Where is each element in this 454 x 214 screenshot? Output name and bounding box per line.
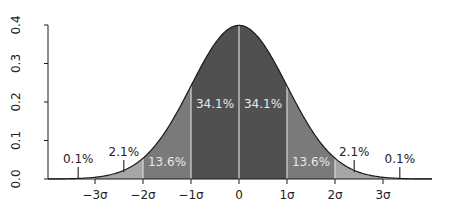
x-tick-label: −3σ [82, 188, 108, 202]
y-tick-label: 0.3 [9, 54, 23, 73]
region-label: 13.6% [292, 155, 330, 169]
x-tick-label: −2σ [130, 188, 156, 202]
region-label: 0.1% [63, 152, 94, 166]
x-tick-label: −1σ [178, 188, 204, 202]
chart-canvas: 0.00.10.20.30.4 −3σ−2σ−1σ01σ2σ3σ 0.1%2.1… [0, 0, 454, 214]
region-label: 2.1% [109, 145, 140, 159]
y-tick-label: 0.2 [9, 92, 23, 111]
y-tick-label: 0.0 [9, 169, 23, 188]
y-tick-label: 0.1 [9, 131, 23, 150]
y-axis-ticks: 0.00.10.20.30.4 [9, 15, 48, 188]
region-label: 2.1% [339, 145, 370, 159]
region-label: 34.1% [196, 97, 234, 111]
region-label: 34.1% [244, 97, 282, 111]
normal-distribution-chart: 0.00.10.20.30.4 −3σ−2σ−1σ01σ2σ3σ 0.1%2.1… [0, 0, 454, 214]
x-axis-ticks: −3σ−2σ−1σ01σ2σ3σ [82, 179, 391, 202]
region-label: 13.6% [148, 155, 186, 169]
x-tick-label: 1σ [279, 188, 295, 202]
x-tick-label: 0 [235, 188, 243, 202]
y-tick-label: 0.4 [9, 15, 23, 34]
region-label: 0.1% [385, 152, 416, 166]
x-tick-label: 3σ [375, 188, 391, 202]
x-tick-label: 2σ [327, 188, 343, 202]
